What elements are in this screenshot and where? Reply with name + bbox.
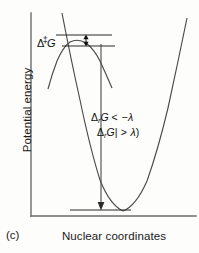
- panel-letter: (c): [6, 229, 19, 241]
- annot2-g: G: [107, 126, 115, 138]
- annot2-bar: |: [115, 126, 118, 138]
- annot2-close-paren: ): [136, 126, 140, 138]
- annot1-lambda: λ: [128, 111, 133, 123]
- annot1-operator: < −: [112, 111, 128, 123]
- annot2-operator: >: [121, 126, 131, 138]
- annot1-delta: Δ: [91, 111, 98, 123]
- reactant-parabola-curve: [48, 40, 112, 89]
- driving-force-arrowhead: [98, 202, 105, 211]
- y-axis-label: Potential energy: [21, 35, 33, 185]
- annot2-delta: Δ: [97, 126, 104, 138]
- activation-energy-label: Δ‡G: [37, 35, 55, 49]
- x-axis-label: Nuclear coordinates: [44, 230, 184, 242]
- annotation-driving-force: ΔrG < −λ: [91, 111, 133, 125]
- annot1-g: G: [101, 111, 109, 123]
- marcus-inverted-region-figure: Δ‡G ΔrG < −λ ΔrG| > λ) Potential energy …: [0, 0, 199, 253]
- activation-energy-g: G: [47, 37, 56, 49]
- annotation-inverted-region: ΔrG| > λ): [97, 126, 140, 140]
